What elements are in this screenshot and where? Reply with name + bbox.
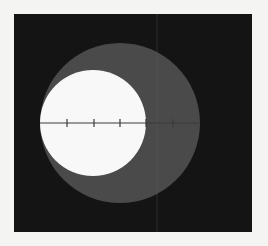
diagram-canvas [0, 0, 268, 246]
tangent-circles-figure [0, 0, 268, 246]
